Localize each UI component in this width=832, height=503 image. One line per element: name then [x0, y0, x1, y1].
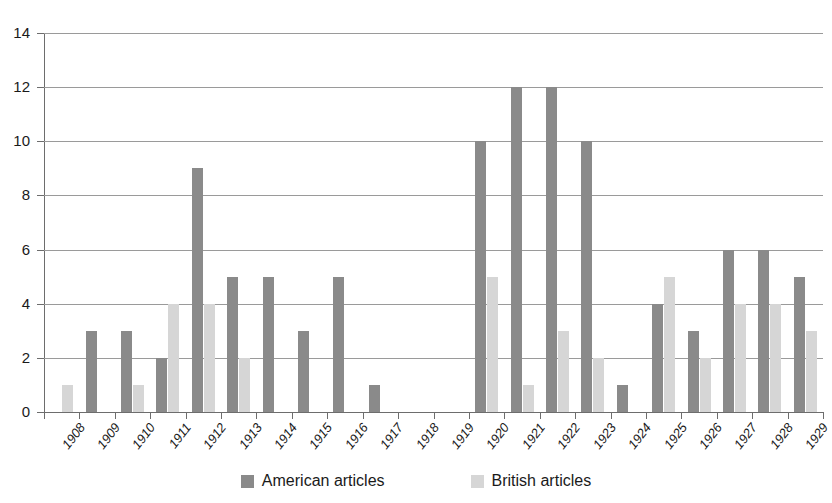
bar [652, 304, 663, 412]
bar-group [150, 33, 185, 412]
x-axis-tick [575, 412, 576, 419]
bar [369, 385, 380, 412]
bar-group [44, 33, 79, 412]
bar-group [788, 33, 823, 412]
x-axis-tick-label: 1910 [130, 421, 158, 452]
x-axis-tick [221, 412, 222, 419]
y-axis-tick-label: 2 [0, 350, 30, 365]
x-axis-tick-label: 1927 [732, 421, 760, 452]
x-axis-tick [434, 412, 435, 419]
x-axis-tick [150, 412, 151, 419]
bar [735, 304, 746, 412]
legend-swatch [241, 475, 254, 488]
bar [121, 331, 132, 412]
plot-area [44, 33, 823, 412]
x-axis-tick [823, 412, 824, 419]
bar [133, 385, 144, 412]
x-axis-tick [327, 412, 328, 419]
x-axis-tick-label: 1913 [236, 421, 264, 452]
x-axis-tick-label: 1911 [166, 421, 194, 451]
legend-item: British articles [471, 472, 592, 490]
x-axis-tick-label: 1909 [95, 421, 123, 452]
legend-label: American articles [262, 472, 385, 490]
bar [700, 358, 711, 412]
x-axis-tick-label: 1921 [520, 421, 548, 452]
bar [581, 141, 592, 412]
bar-group [717, 33, 752, 412]
x-axis-tick [292, 412, 293, 419]
bar [333, 277, 344, 412]
bar-group [504, 33, 539, 412]
x-axis-tick [788, 412, 789, 419]
bar [523, 385, 534, 412]
bar-group [186, 33, 221, 412]
y-axis-tick-label: 0 [0, 404, 30, 419]
x-axis-tick-label: 1912 [201, 421, 229, 452]
bar [156, 358, 167, 412]
bar [168, 304, 179, 412]
bar [298, 331, 309, 412]
x-axis-tick [363, 412, 364, 419]
bar-group [575, 33, 610, 412]
x-axis-tick-label: 1920 [484, 421, 512, 452]
y-axis-tick [37, 412, 44, 413]
x-axis-tick [540, 412, 541, 419]
bar [688, 331, 699, 412]
bar-group [327, 33, 362, 412]
x-axis-tick-label: 1908 [59, 421, 87, 452]
x-axis-tick [469, 412, 470, 419]
x-axis-tick-label: 1923 [590, 421, 618, 452]
x-axis-tick-label: 1928 [767, 421, 795, 452]
bar [511, 87, 522, 412]
x-axis-tick [646, 412, 647, 419]
x-axis-tick-label: 1924 [626, 421, 654, 452]
x-axis-tick [717, 412, 718, 419]
x-axis-tick [504, 412, 505, 419]
x-axis-tick-label: 1914 [272, 421, 300, 452]
y-axis-tick [37, 358, 44, 359]
bar [487, 277, 498, 412]
bar [794, 277, 805, 412]
bar [263, 277, 274, 412]
x-axis-tick [752, 412, 753, 419]
bar [617, 385, 628, 412]
x-axis-tick [611, 412, 612, 419]
y-axis-tick [37, 195, 44, 196]
x-axis-tick [681, 412, 682, 419]
bar-group [646, 33, 681, 412]
x-axis-tick [44, 412, 45, 419]
x-axis-tick [186, 412, 187, 419]
bar [723, 250, 734, 412]
bar [758, 250, 769, 412]
x-axis-tick [398, 412, 399, 419]
bar [806, 331, 817, 412]
bar-group [115, 33, 150, 412]
bar-group [398, 33, 433, 412]
bar-group [469, 33, 504, 412]
bar [62, 385, 73, 412]
bar-group [221, 33, 256, 412]
bar-chart: 02468101214 1908190919101911191219131914… [0, 0, 832, 503]
legend-swatch [471, 475, 484, 488]
x-axis-tick-label: 1916 [343, 421, 371, 452]
bar-group [540, 33, 575, 412]
bar-group [752, 33, 787, 412]
y-axis-tick-label: 8 [0, 187, 30, 202]
y-axis-tick [37, 304, 44, 305]
y-axis-tick [37, 250, 44, 251]
y-axis-tick [37, 33, 44, 34]
x-axis-tick [79, 412, 80, 419]
chart-legend: American articlesBritish articles [0, 472, 832, 490]
x-axis-tick-label: 1919 [449, 421, 477, 452]
x-axis-tick-label: 1915 [307, 421, 335, 452]
bar-group [681, 33, 716, 412]
bar [770, 304, 781, 412]
bar-group [256, 33, 291, 412]
bar [593, 358, 604, 412]
x-axis-tick [115, 412, 116, 419]
bar-group [79, 33, 114, 412]
legend-label: British articles [492, 472, 592, 490]
x-axis-tick-label: 1925 [661, 421, 689, 452]
x-axis-tick-label: 1917 [378, 421, 406, 452]
bar [239, 358, 250, 412]
